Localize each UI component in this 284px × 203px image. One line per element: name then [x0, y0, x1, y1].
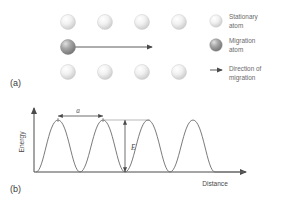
lattice-row-bottom: [61, 65, 187, 80]
energy-annotation: E: [103, 120, 150, 172]
legend-item-stationary-atom: Stationary atom: [210, 13, 259, 29]
energy-curve: [36, 120, 244, 172]
stationary-atom: [135, 15, 150, 30]
stationary-atom: [135, 65, 150, 80]
stationary-atom: [98, 15, 113, 30]
legend-item-migration-atom: Migration atom: [210, 37, 256, 53]
panel-a: (a): [10, 15, 187, 89]
spacing-label: a: [76, 107, 80, 115]
legend-label-line1: Direction of: [229, 65, 262, 72]
migration-atom: [61, 40, 76, 55]
panel-b-label: (b): [10, 184, 21, 194]
y-axis-label: Energy: [18, 131, 26, 153]
legend-label-line1: Stationary: [229, 13, 259, 21]
panel-b: a E Energy Distance (b): [10, 107, 246, 194]
legend-item-direction: Direction of migration: [210, 65, 262, 82]
stationary-atom-sphere-icon: [210, 15, 222, 27]
stationary-atom: [61, 15, 76, 30]
stationary-atom: [98, 65, 113, 80]
stationary-atom: [172, 65, 187, 80]
panel-a-label: (a): [10, 78, 21, 88]
stationary-atom: [172, 15, 187, 30]
lattice-row-top: [61, 15, 187, 30]
x-axis-label: Distance: [202, 180, 228, 187]
legend-label-line1: Migration: [229, 37, 256, 45]
energy-label: E: [130, 144, 136, 152]
legend-label-line2: atom: [229, 22, 243, 29]
migration-energy-figure: (a) Stationary atom Migration atom Direc…: [0, 0, 284, 203]
legend-label-line2: migration: [229, 74, 256, 82]
legend-label-line2: atom: [229, 46, 243, 53]
spacing-annotation: a: [58, 107, 103, 122]
stationary-atom: [61, 65, 76, 80]
legend: Stationary atom Migration atom Direction…: [210, 13, 262, 82]
migration-atom-sphere-icon: [210, 39, 222, 51]
